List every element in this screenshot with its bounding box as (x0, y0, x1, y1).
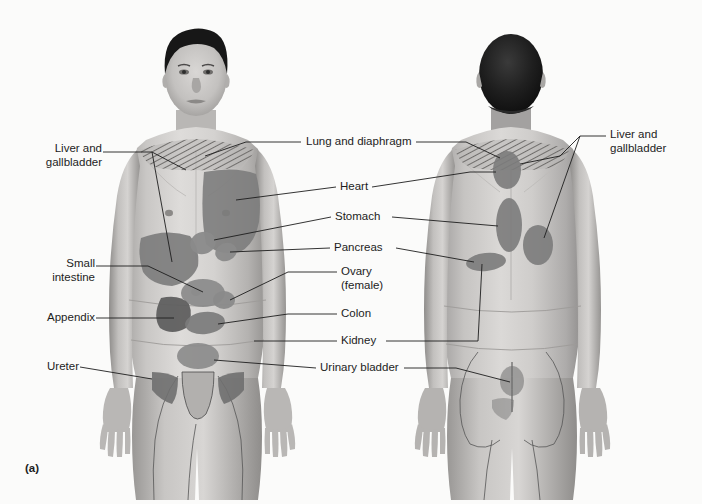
figure-caption: (a) (25, 462, 39, 474)
region-urinary-bladder-posterior (500, 366, 524, 396)
posterior-hand-right (579, 388, 610, 457)
label-small-intestine: Small intestine (20, 257, 95, 284)
label-stomach: Stomach (335, 210, 380, 224)
anterior-hand-right (264, 388, 295, 457)
posterior-head (479, 34, 543, 114)
label-kidney: Kidney (341, 334, 376, 348)
label-colon: Colon (341, 307, 371, 321)
label-ovary-female: Ovary (female) (341, 265, 383, 292)
region-liver-gallbladder-posterior-flank (523, 225, 553, 265)
label-ureter: Ureter (20, 360, 79, 374)
label-heart: Heart (340, 180, 368, 194)
region-urinary-bladder-anterior (177, 343, 219, 369)
label-lung-diaphragm: Lung and diaphragm (306, 135, 412, 149)
label-appendix: Appendix (20, 311, 95, 325)
posterior-body-figure (415, 34, 610, 500)
posterior-hand-left (415, 388, 446, 457)
region-ovary-anterior (213, 291, 235, 309)
anterior-body-figure (100, 29, 295, 501)
figure-page: Liver and gallbladder Small intestine Ap… (0, 0, 702, 504)
label-liver-gallbladder-right: Liver and gallbladder (610, 128, 666, 155)
region-stomach-posterior (496, 198, 522, 252)
label-urinary-bladder: Urinary bladder (320, 361, 399, 375)
label-pancreas: Pancreas (334, 241, 383, 255)
label-liver-gallbladder-left: Liver and gallbladder (20, 142, 102, 169)
anterior-hand-left (100, 388, 131, 457)
